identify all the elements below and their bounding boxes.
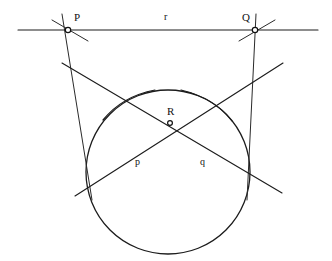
point-r-label: R: [167, 106, 174, 117]
point-p-label: P: [74, 12, 80, 23]
point-r-marker: [168, 121, 173, 126]
point-q-label: Q: [242, 12, 250, 23]
construction-line-from-p: [62, 14, 92, 200]
line-p-label: p: [135, 157, 140, 167]
geometry-diagram: P Q R r p q: [0, 0, 332, 261]
geometry-canvas: [0, 0, 332, 261]
point-p-marker: [65, 27, 70, 32]
point-q-marker: [252, 27, 257, 32]
construction-line-from-q: [247, 14, 256, 200]
construction-arc-right: [181, 90, 232, 121]
line-p: [75, 63, 283, 196]
line-r-label: r: [164, 12, 167, 22]
line-q-label: q: [200, 157, 205, 167]
construction-arc-left: [103, 90, 155, 120]
line-q: [62, 63, 282, 193]
